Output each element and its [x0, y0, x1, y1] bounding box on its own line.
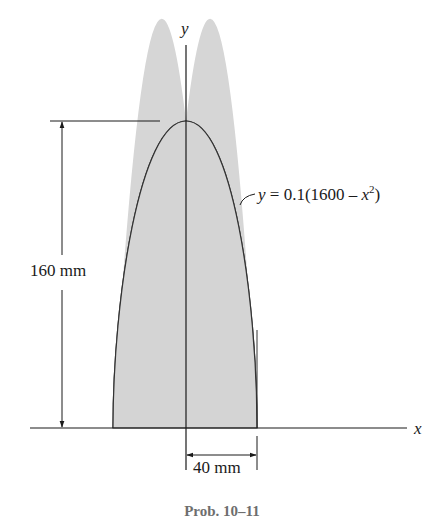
equation-leader: [240, 194, 255, 205]
x-axis-label: x: [413, 419, 422, 438]
parabolic-area-diagram: y x 160 mm 40 mm y = 0.1(1600 – x2) Prob…: [0, 0, 447, 527]
y-axis-label: y: [179, 19, 189, 38]
figure-caption: Prob. 10–11: [184, 503, 260, 519]
curve-equation: y = 0.1(1600 – x2): [256, 183, 380, 204]
width-dimension-label: 40 mm: [193, 458, 241, 477]
height-dimension-label: 160 mm: [30, 261, 86, 280]
